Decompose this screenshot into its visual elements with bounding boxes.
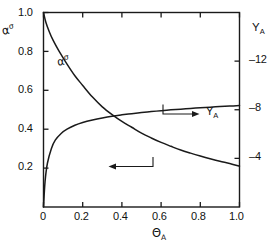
xtick-0-2: 0.2 [74,211,89,222]
curve-label-ya: YA [206,106,218,120]
alpha-arrow-head [109,164,117,170]
xtick-0: 0 [40,211,46,222]
ytick-left-1-0: 1.0 [18,7,33,18]
ytick-left-0-8: 0.8 [18,46,33,57]
ya-arrow-head [192,111,200,117]
xtick-1-0: 1.0 [229,211,244,222]
ytick-left-0-2: 0.2 [18,161,33,172]
curve-alpha [44,13,240,167]
alpha-arrow-line [113,157,153,167]
ytick-right-8: –8 [249,102,261,113]
curve-label-alpha: ασ [58,55,70,68]
y-axis-left-title: ασ [3,24,15,37]
ytick-left-0-4: 0.4 [18,123,33,134]
xtick-0-6: 0.6 [152,211,167,222]
y-axis-right-title: YA [252,22,265,36]
ytick-right-4: –4 [249,151,261,162]
xtick-0-4: 0.4 [113,211,128,222]
curve-ya [44,106,240,207]
x-axis-title: ΘA [152,228,166,242]
ytick-left-0-6: 0.6 [18,84,33,95]
chart-figure: 1.0 0.8 0.6 0.4 0.2 0 0.2 0.4 0.6 0.8 1.… [0,0,276,248]
xtick-0-8: 0.8 [191,211,206,222]
ytick-right-12: –12 [249,54,267,65]
